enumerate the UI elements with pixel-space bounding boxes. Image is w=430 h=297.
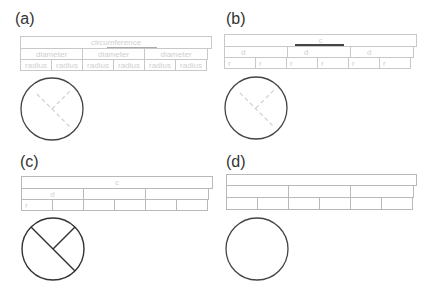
circle-diagram-d bbox=[0, 0, 430, 297]
